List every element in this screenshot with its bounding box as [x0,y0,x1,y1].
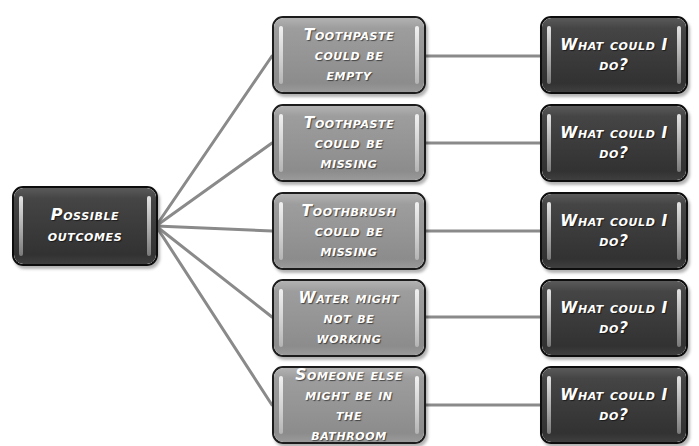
connector-root-to-outcome-4 [156,226,272,317]
node-body: Someone else might be in the bathroom [274,368,424,442]
node-body: What could I do? [542,281,686,355]
node-body: Toothpaste could be empty [274,18,424,92]
node-label: What could I do? [560,123,668,163]
node-body: Toothbrush could be missing [274,194,424,268]
node-body: What could I do? [542,368,686,442]
node-body: Toothpaste could be missing [274,106,424,180]
diagram-canvas: Possible outcomes Toothpaste could be em… [0,0,699,446]
node-outcome-4[interactable]: Water might not be working [272,279,426,357]
node-outcome-5[interactable]: Someone else might be in the bathroom [272,366,426,444]
node-response-4[interactable]: What could I do? [540,279,688,357]
node-label: Toothpaste could be missing [304,113,395,173]
node-body: What could I do? [542,106,686,180]
node-response-3[interactable]: What could I do? [540,192,688,270]
connector-root-to-outcome-5 [156,226,272,405]
node-response-5[interactable]: What could I do? [540,366,688,444]
node-body: Possible outcomes [14,188,156,264]
node-outcome-1[interactable]: Toothpaste could be empty [272,16,426,94]
node-label: What could I do? [560,211,668,251]
node-body: What could I do? [542,194,686,268]
node-label: Possible outcomes [48,205,122,247]
node-outcome-3[interactable]: Toothbrush could be missing [272,192,426,270]
node-label: What could I do? [560,298,668,338]
node-label: Toothbrush could be missing [302,201,397,261]
node-label: What could I do? [560,35,668,75]
node-label: Water might not be working [290,288,408,348]
node-response-2[interactable]: What could I do? [540,104,688,182]
node-response-1[interactable]: What could I do? [540,16,688,94]
node-label: Someone else might be in the bathroom [290,366,408,444]
connector-root-to-outcome-3 [156,226,272,231]
node-body: Water might not be working [274,281,424,355]
node-body: What could I do? [542,18,686,92]
connector-root-to-outcome-2 [156,143,272,226]
node-outcome-2[interactable]: Toothpaste could be missing [272,104,426,182]
connector-root-to-outcome-1 [156,56,272,226]
node-label: Toothpaste could be empty [290,25,408,85]
node-label: What could I do? [560,385,668,425]
node-possible-outcomes[interactable]: Possible outcomes [12,186,158,266]
